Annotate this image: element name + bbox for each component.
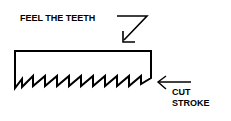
cut-label: CUT — [172, 87, 191, 97]
saw-diagram: FEEL THE TEETH CUT STROKE — [0, 0, 231, 121]
stroke-label: STROKE — [172, 98, 210, 108]
feel-the-teeth-label: FEEL THE TEETH — [20, 13, 95, 23]
saw-blade — [15, 51, 151, 88]
feel-arrow-icon — [117, 16, 147, 42]
